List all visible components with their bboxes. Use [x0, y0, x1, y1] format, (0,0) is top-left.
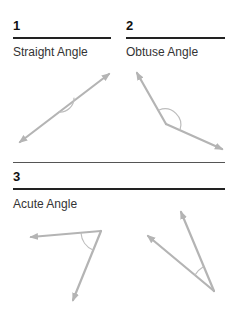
angle-figures: [0, 0, 238, 333]
acute-angle-figure-2: [148, 212, 214, 291]
straight-angle-figure: [20, 74, 109, 142]
acute-angle-figure-1: [31, 231, 101, 300]
obtuse-angle-figure: [137, 73, 222, 149]
